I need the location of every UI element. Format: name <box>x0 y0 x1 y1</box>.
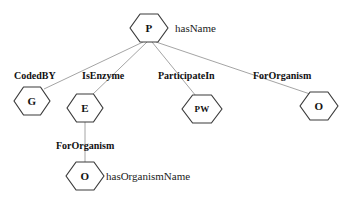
edge-p-to-g <box>44 42 143 89</box>
ontology-diagram-canvas: PGEPWOO CodedBYIsEnzymeParticipateInForO… <box>0 0 348 204</box>
edge-label-codedby: CodedBY <box>14 71 56 81</box>
attribute-label-hasorganismname: hasOrganismName <box>106 171 190 182</box>
node-label-o1: O <box>315 101 324 112</box>
edge-label-fororganism: ForOrganism <box>253 71 311 81</box>
edge-p-to-o1 <box>156 42 310 94</box>
node-label-pw: PW <box>195 105 210 114</box>
node-g[interactable]: G <box>14 87 50 115</box>
node-e[interactable]: E <box>67 94 103 122</box>
node-o2[interactable]: O <box>66 162 104 190</box>
node-o1[interactable]: O <box>300 92 338 120</box>
attribute-label-hasname: hasName <box>175 23 216 34</box>
node-p[interactable]: P <box>130 14 168 42</box>
edge-label-isenzyme: IsEnzyme <box>82 71 124 81</box>
node-pw[interactable]: PW <box>182 95 222 123</box>
node-label-o2: O <box>81 171 90 182</box>
edge-label-participatein: ParticipateIn <box>158 71 215 81</box>
edge-p-to-e <box>92 42 147 95</box>
node-label-e: E <box>81 103 89 114</box>
node-label-g: G <box>28 96 37 107</box>
node-label-p: P <box>146 23 153 34</box>
edge-label-fororganism: ForOrganism <box>56 141 114 151</box>
edge-p-to-pw <box>152 42 196 96</box>
